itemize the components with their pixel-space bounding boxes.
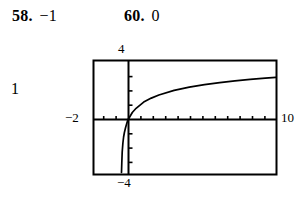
plot-frame (94, 61, 277, 175)
graph-plot (0, 0, 299, 200)
window-label-ymax: 4 (118, 42, 125, 56)
graph-figure: 4 −2 10 −4 (0, 0, 299, 200)
window-label-xmin: −2 (65, 111, 79, 125)
window-label-ymin: −4 (117, 176, 131, 190)
window-label-xmax: 10 (281, 111, 294, 125)
log-curve (122, 77, 276, 172)
